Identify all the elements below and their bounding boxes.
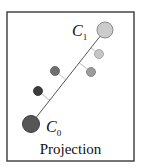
data-points <box>34 50 104 96</box>
data-point-circle <box>34 87 43 96</box>
caption: Projection <box>40 141 102 157</box>
centroids: C0C1 <box>23 22 114 138</box>
data-point-circle <box>51 67 60 76</box>
centroid-c0-circle <box>23 116 40 133</box>
centroid-c1-label: C1 <box>72 22 87 42</box>
data-point-circle <box>95 50 104 59</box>
diagram-frame <box>7 12 134 161</box>
data-point-circle <box>87 68 96 77</box>
centroid-c1-circle <box>97 22 113 38</box>
centroid-axis-line <box>31 30 105 124</box>
projection-diagram: C0C1 Projection <box>0 0 141 168</box>
centroid-c0-label: C0 <box>46 118 62 138</box>
